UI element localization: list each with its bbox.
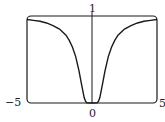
chart-plot-area <box>0 0 165 122</box>
x-tick-label-right: 5 <box>159 98 165 109</box>
y-tick-label-top: 1 <box>89 3 96 14</box>
x-tick-label-left: −5 <box>5 97 21 108</box>
x-tick-label-center: 0 <box>89 108 96 119</box>
